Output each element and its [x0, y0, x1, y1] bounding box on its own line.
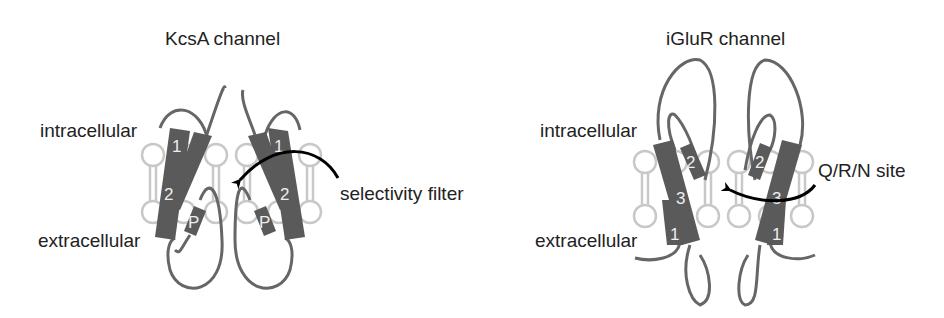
iglur-helix-label-1-left: 1: [670, 225, 679, 244]
kcsa-helix-label-2-left: 2: [164, 185, 173, 204]
iglur-helix-label-3-left: 3: [676, 189, 685, 208]
kcsa-helix-label-1-left: 1: [172, 137, 181, 156]
iglur-helix-label-2-left: 2: [686, 153, 695, 172]
diagram-canvas: 1 2 P 1 2 P: [0, 0, 944, 318]
iglur-helix-label-2-right: 2: [755, 153, 764, 172]
kcsa-helix-label-2-right: 2: [280, 185, 289, 204]
iglur-helix-label-3-right: 3: [772, 189, 781, 208]
iglur-helix-label-1-right: 1: [772, 225, 781, 244]
kcsa-helix-label-p-left: P: [188, 213, 199, 232]
kcsa-helix-label-p-right: P: [259, 213, 270, 232]
